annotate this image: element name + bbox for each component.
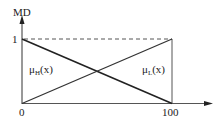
membership-function-diagram: MD 1 0 100 μH(x) μL(x)	[0, 0, 221, 117]
y-axis-label: MD	[13, 7, 31, 18]
diagram-canvas	[0, 0, 221, 117]
x-axis-arrow-icon	[204, 101, 213, 106]
x-max-tick-label: 100	[162, 107, 179, 117]
mu-l-arg: (x)	[152, 63, 165, 75]
mu-h-arg: (x)	[40, 63, 53, 75]
mu-h-label: μH(x)	[29, 64, 53, 79]
mu-l-label: μL(x)	[142, 64, 165, 79]
x-min-tick-label: 0	[19, 107, 25, 117]
y-max-tick-label: 1	[12, 34, 18, 45]
